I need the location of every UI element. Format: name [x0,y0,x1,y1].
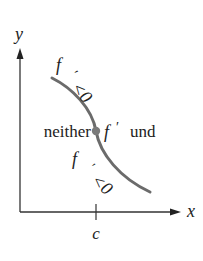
label-f: f [104,122,112,142]
y-axis-label: y [13,24,23,44]
label-prime: ′ [116,120,119,135]
x-axis: x [20,201,195,221]
label-lower-f-prime-negative: f ′ <0 [61,144,120,199]
x-axis-label: x [186,201,195,221]
upper-ineq: <0 [67,78,96,107]
label-f-prime-und: f ′ und [104,120,156,142]
inflection-point [92,127,100,135]
inflection-diagram: y x c neither f ′ und f ′ <0 f ′ <0 [0,0,203,261]
tick-label-c: c [92,224,100,243]
upper-prime: ′ [67,68,80,80]
label-neither: neither [44,122,92,141]
lower-f: f [72,149,80,169]
tick-c: c [92,204,100,243]
x-axis-arrow-icon [170,209,181,216]
label-und: und [130,122,156,141]
y-axis-arrow-icon [17,48,24,59]
y-axis: y [13,24,24,212]
upper-f: f [56,55,64,75]
lower-ineq: <0 [88,170,117,199]
lower-prime: ′ [86,160,98,173]
